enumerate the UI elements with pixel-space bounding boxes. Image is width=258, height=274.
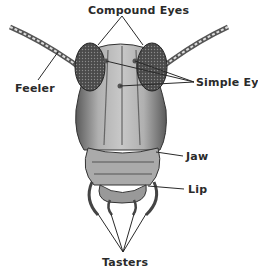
label-lip: Lip [188, 183, 207, 196]
label-tasters: Tasters [102, 256, 148, 269]
label-jaw: Jaw [186, 150, 208, 163]
label-compound-eyes: Compound Eyes [88, 4, 189, 17]
grasshopper-head-diagram [0, 0, 258, 274]
label-feeler: Feeler [15, 82, 55, 95]
label-simple-eye: Simple Eye [196, 76, 258, 89]
taster-outer-left [89, 182, 98, 215]
compound-eye-left [75, 43, 105, 91]
lip [99, 185, 146, 203]
jaw [85, 148, 160, 185]
